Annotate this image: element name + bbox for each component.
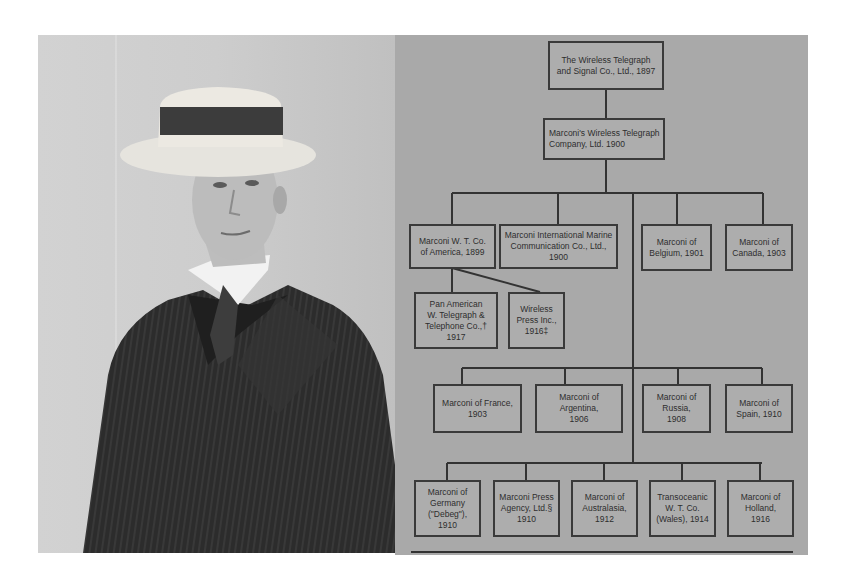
node-marconi-holland: Marconi of Holland, 1916 — [727, 480, 794, 537]
left-eye — [213, 182, 227, 188]
node-label: Marconi of France, 1903 — [442, 398, 513, 420]
node-marconi-australasia: Marconi of Australasia, 1912 — [571, 480, 638, 537]
node-label: Marconi of Germany ("Debeg"), 1910 — [418, 487, 477, 531]
node-marconi-canada: Marconi of Canada, 1903 — [725, 224, 793, 271]
node-label: Marconi's Wireless Telegraph Company, Lt… — [549, 128, 660, 150]
node-label: Marconi of Russia, 1908 — [646, 392, 707, 425]
node-label: Marconi W. T. Co. of America, 1899 — [419, 236, 486, 258]
node-marconi-france: Marconi of France, 1903 — [433, 384, 522, 433]
ear — [273, 186, 287, 214]
node-marconi-russia: Marconi of Russia, 1908 — [642, 384, 711, 433]
node-marconi-international-marine: Marconi International Marine Communicati… — [499, 224, 618, 269]
node-marconi-spain: Marconi of Spain, 1910 — [725, 384, 793, 433]
node-label: Wireless Press Inc., 1916‡ — [516, 304, 556, 337]
hat-band — [160, 107, 283, 135]
node-marconi-wireless-telegraph-co: Marconi's Wireless Telegraph Company, Lt… — [543, 118, 665, 160]
portrait-photo — [38, 35, 395, 553]
node-marconi-press-agency: Marconi Press Agency, Ltd.§ 1910 — [493, 480, 560, 537]
connector-wireless-press — [452, 268, 540, 292]
node-pan-american: Pan American W. Telegraph & Telephone Co… — [414, 292, 498, 349]
node-marconi-america: Marconi W. T. Co. of America, 1899 — [409, 224, 496, 269]
portrait-illustration — [38, 35, 395, 553]
node-label: Marconi of Australasia, 1912 — [582, 492, 626, 525]
node-label: Transoceanic W. T. Co. (Wales), 1914 — [656, 492, 709, 525]
node-marconi-argentina: Marconi of Argentina, 1906 — [535, 384, 623, 433]
node-wireless-press: Wireless Press Inc., 1916‡ — [508, 292, 565, 349]
node-marconi-belgium: Marconi of Belgium, 1901 — [641, 224, 712, 271]
node-label: Marconi of Holland, 1916 — [741, 492, 781, 525]
node-label: Marconi of Canada, 1903 — [732, 237, 785, 259]
right-eye — [245, 180, 259, 186]
node-label: Marconi International Marine Communicati… — [503, 230, 614, 263]
node-wireless-telegraph-signal-co: The Wireless Telegraph and Signal Co., L… — [548, 41, 664, 90]
node-label: Pan American W. Telegraph & Telephone Co… — [418, 299, 494, 343]
node-label: Marconi Press Agency, Ltd.§ 1910 — [499, 492, 553, 525]
node-label: The Wireless Telegraph and Signal Co., L… — [557, 55, 655, 77]
org-chart: The Wireless Telegraph and Signal Co., L… — [395, 35, 808, 555]
node-transoceanic-wt-co: Transoceanic W. T. Co. (Wales), 1914 — [649, 480, 716, 537]
node-label: Marconi of Argentina, 1906 — [539, 392, 619, 425]
node-label: Marconi of Spain, 1910 — [736, 398, 781, 420]
node-label: Marconi of Belgium, 1901 — [649, 237, 703, 259]
node-marconi-germany: Marconi of Germany ("Debeg"), 1910 — [414, 480, 481, 537]
